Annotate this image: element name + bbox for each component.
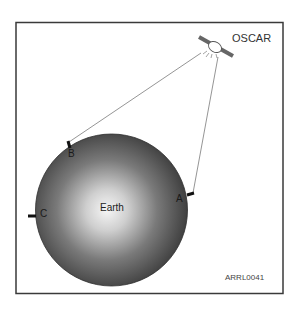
station-label-b: B (68, 149, 75, 159)
earth-label: Earth (100, 203, 124, 213)
figure-code: ARRL0041 (225, 274, 264, 282)
station-marker-b (68, 141, 70, 148)
station-label-a: A (176, 194, 183, 204)
diagram-svg (0, 0, 298, 317)
satellite-label: OSCAR (232, 33, 271, 44)
station-marker-a (187, 193, 194, 195)
diagram-canvas: OSCAR Earth B C A ARRL0041 (0, 0, 298, 317)
station-label-c: C (40, 209, 47, 219)
